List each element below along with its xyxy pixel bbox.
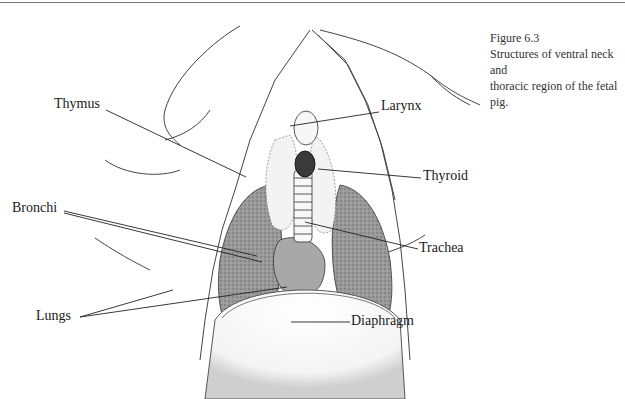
label-thymus: Thymus xyxy=(54,96,100,112)
thyroid-drawing xyxy=(295,151,315,177)
label-lungs: Lungs xyxy=(36,308,71,324)
trachea-drawing xyxy=(294,170,312,242)
label-thyroid: Thyroid xyxy=(423,168,468,184)
larynx-drawing xyxy=(294,111,318,145)
label-larynx: Larynx xyxy=(381,98,421,114)
label-bronchi: Bronchi xyxy=(12,200,57,216)
label-trachea: Trachea xyxy=(419,240,464,256)
fetal-pig-illustration xyxy=(0,0,625,399)
label-diaphragm: Diaphragm xyxy=(351,313,414,329)
diaphragm-drawing xyxy=(205,290,405,399)
